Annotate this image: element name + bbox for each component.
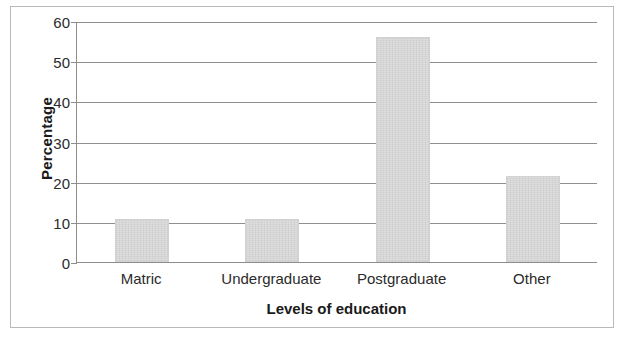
x-axis-tick-label: Matric [121,270,162,287]
y-axis-tick [71,263,77,264]
y-axis-tick-label: 60 [53,14,70,31]
y-axis-tick-label: 40 [53,94,70,111]
y-axis-tick-label: 10 [53,214,70,231]
gridline [77,263,597,264]
bars-group [77,22,597,262]
bar [506,176,560,262]
y-axis-tick-label: 30 [53,134,70,151]
x-axis-tick-label: Undergraduate [221,270,321,287]
bar [376,37,430,262]
y-axis-tick-label: 50 [53,54,70,71]
y-axis-tick-label: 0 [62,255,70,272]
plot-area [76,22,597,263]
bar [115,219,169,262]
x-axis-title: Levels of education [76,300,597,317]
bar [245,219,299,262]
y-axis-tick-labels: 6050403020100 [30,22,70,263]
x-axis-tick-label: Other [513,270,551,287]
y-axis-tick-label: 20 [53,174,70,191]
x-axis-tick-label: Postgraduate [357,270,446,287]
x-axis-tick-labels: MatricUndergraduatePostgraduateOther [76,270,597,292]
bar-chart-figure: Percentage 6050403020100 MatricUndergrad… [0,0,625,340]
